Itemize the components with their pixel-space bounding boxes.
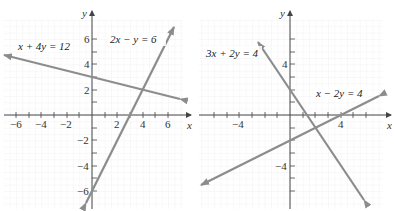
left-xtick-label: −4 (35, 118, 47, 130)
left-xtick-label: −6 (10, 118, 22, 130)
right-ytick-label: −4 (275, 160, 287, 172)
right-ytick-label: 4 (282, 58, 288, 70)
left-xtick-label: 6 (165, 118, 171, 130)
left-xtick-label: 2 (114, 118, 120, 130)
left-xtick-label: 4 (140, 118, 146, 130)
left-xtick-label: −2 (60, 118, 72, 130)
left-graph: −6 −4 −2 2 4 6 6 4 2 −2 −4 −6 y x x + 4y… (4, 7, 192, 209)
left-ytick-label: 2 (84, 84, 90, 96)
equation-label-2: 2x − y = 6 (110, 33, 157, 45)
graphs-figure: −6 −4 −2 2 4 6 6 4 2 −2 −4 −6 y x x + 4y… (0, 0, 394, 211)
equation-label-1: x + 4y = 12 (17, 40, 71, 52)
left-y-axis-label: y (81, 7, 87, 19)
left-ytick-label: 4 (84, 58, 90, 70)
right-graph: −4 4 4 −4 y x 3x + 2y = 4 x − 2y = 4 (199, 7, 392, 209)
right-x-axis-label: x (386, 119, 392, 131)
left-ytick-label: −4 (77, 160, 89, 172)
right-xtick-label: −4 (232, 118, 244, 130)
right-y-axis-label: y (279, 7, 285, 19)
left-x-axis-label: x (186, 119, 192, 131)
left-ytick-label: 6 (84, 33, 90, 45)
equation-label-4: x − 2y = 4 (315, 87, 363, 99)
left-ytick-label: −2 (77, 134, 89, 146)
left-ytick-label: −6 (77, 185, 89, 197)
equation-label-3: 3x + 2y = 4 (205, 47, 259, 59)
right-xtick-label: 4 (338, 118, 344, 130)
